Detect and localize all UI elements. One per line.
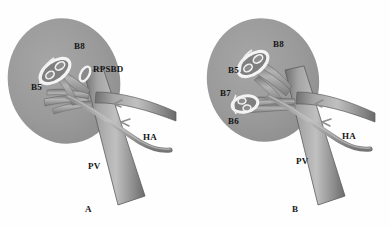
label-b8: B8 (273, 40, 284, 49)
panel-b-illustration (195, 0, 390, 227)
panel-b: B8 B5 B7 B6 HA PV B (195, 0, 390, 227)
panel-letter-a: A (85, 204, 92, 214)
artery-twig-lower (121, 119, 130, 126)
label-b6: B6 (228, 117, 239, 126)
label-ha: HA (342, 132, 356, 141)
panel-a-illustration (0, 0, 195, 227)
label-b5: B5 (31, 83, 42, 92)
label-b8: B8 (74, 42, 85, 51)
figure-root: B8 RPSBD B5 HA PV A (0, 0, 390, 227)
label-rpsbd: RPSBD (93, 65, 124, 74)
label-pv: PV (88, 162, 100, 171)
label-b5: B5 (228, 66, 239, 75)
label-ha: HA (143, 133, 157, 142)
panel-a: B8 RPSBD B5 HA PV A (0, 0, 195, 227)
panel-letter-b: B (292, 204, 298, 214)
label-b7: B7 (220, 89, 231, 98)
label-pv: PV (296, 157, 308, 166)
artery-twig-lower (322, 119, 331, 126)
